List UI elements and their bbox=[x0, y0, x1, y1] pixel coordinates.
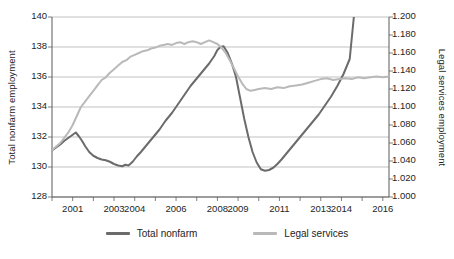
y2-axis-tick-label: 1.160 bbox=[392, 46, 432, 57]
y2-axis-tick-label: 1.100 bbox=[392, 100, 432, 111]
y2-axis-tick-label: 1.200 bbox=[392, 10, 432, 21]
y2-axis-tick-label: 1.040 bbox=[392, 154, 432, 165]
series-line-legal-services bbox=[52, 40, 389, 150]
x-axis-tick-label: 2004 bbox=[115, 203, 155, 214]
gridlines bbox=[52, 17, 389, 197]
axis-tick-marks bbox=[48, 17, 393, 201]
legend-item[interactable]: Legal services bbox=[253, 228, 348, 239]
x-axis-tick-label: 2001 bbox=[53, 203, 93, 214]
legend-swatch-icon bbox=[253, 232, 277, 235]
right-axis-title: Legal services employment bbox=[437, 28, 448, 188]
data-series bbox=[52, 17, 389, 171]
chart-legend: Total nonfarmLegal services bbox=[0, 228, 454, 239]
y2-axis-tick-label: 1.180 bbox=[392, 28, 432, 39]
y2-axis-tick-label: 1.000 bbox=[392, 190, 432, 201]
x-axis-tick-label: 2009 bbox=[218, 203, 258, 214]
legend-label: Total nonfarm bbox=[137, 228, 198, 239]
y-axis-tick-label: 134 bbox=[13, 100, 47, 111]
y-axis-tick-label: 138 bbox=[13, 40, 47, 51]
plot-area bbox=[0, 0, 454, 259]
legend-item[interactable]: Total nonfarm bbox=[106, 228, 198, 239]
y2-axis-tick-label: 1.140 bbox=[392, 64, 432, 75]
y2-axis-tick-label: 1.060 bbox=[392, 136, 432, 147]
legend-swatch-icon bbox=[106, 232, 130, 235]
x-axis-tick-label: 2006 bbox=[156, 203, 196, 214]
x-axis-tick-label: 2011 bbox=[259, 203, 299, 214]
x-axis-tick-label: 2014 bbox=[321, 203, 361, 214]
x-axis-tick-label: 2016 bbox=[363, 203, 403, 214]
legend-label: Legal services bbox=[284, 228, 348, 239]
y2-axis-tick-label: 1.020 bbox=[392, 172, 432, 183]
y-axis-tick-label: 128 bbox=[13, 190, 47, 201]
y-axis-tick-label: 132 bbox=[13, 130, 47, 141]
y-axis-tick-label: 140 bbox=[13, 10, 47, 21]
chart-container: Total nonfarm employment Legal services … bbox=[0, 0, 454, 259]
y-axis-tick-label: 130 bbox=[13, 160, 47, 171]
y2-axis-tick-label: 1.120 bbox=[392, 82, 432, 93]
series-line-total-nonfarm bbox=[52, 17, 354, 171]
y-axis-tick-label: 136 bbox=[13, 70, 47, 81]
y2-axis-tick-label: 1.080 bbox=[392, 118, 432, 129]
